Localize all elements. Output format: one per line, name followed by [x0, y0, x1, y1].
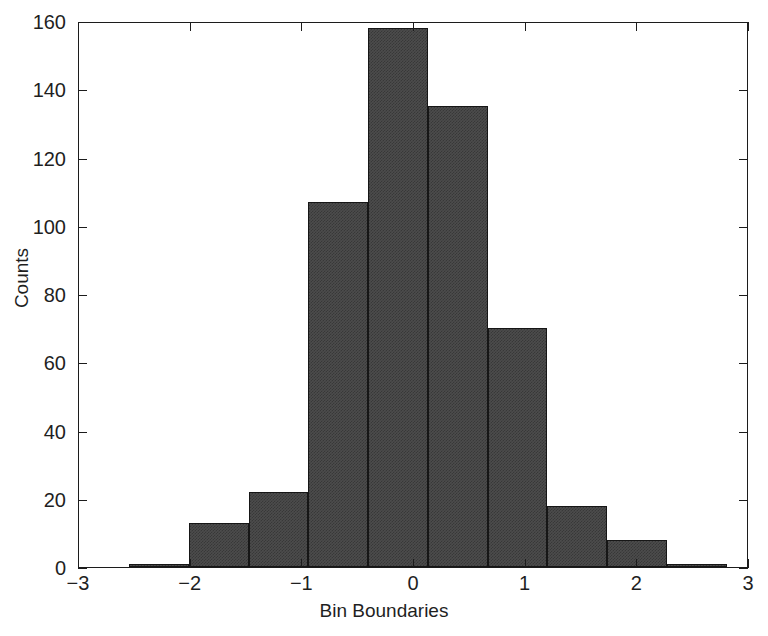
x-tick-label: 2	[606, 572, 666, 594]
histogram-bar	[547, 506, 607, 567]
y-tick-mark	[78, 363, 87, 364]
x-tick-label: 3	[718, 572, 768, 594]
x-tick-mark-top	[636, 22, 637, 31]
y-tick-mark-right	[739, 432, 748, 433]
x-tick-label: −1	[271, 572, 331, 594]
histogram-bar	[129, 564, 189, 567]
y-tick-label: 140	[33, 80, 66, 100]
x-tick-mark	[78, 559, 79, 568]
x-tick-mark-top	[525, 22, 526, 31]
y-tick-mark-right	[739, 159, 748, 160]
x-tick-mark	[190, 559, 191, 568]
histogram-bar	[488, 328, 548, 567]
x-axis-title: Bin Boundaries	[0, 600, 768, 622]
x-tick-mark	[636, 559, 637, 568]
x-tick-mark	[525, 559, 526, 568]
x-tick-label: −2	[160, 572, 220, 594]
x-tick-mark	[413, 559, 414, 568]
y-tick-mark-right	[739, 500, 748, 501]
histogram-figure: 020406080100120140160 −3−2−10123 Bin Bou…	[0, 0, 768, 636]
y-tick-mark	[78, 500, 87, 501]
y-tick-label: 100	[33, 217, 66, 237]
y-tick-mark-right	[739, 363, 748, 364]
x-tick-mark-top	[190, 22, 191, 31]
histogram-bar	[368, 28, 428, 567]
histogram-bar	[428, 106, 488, 567]
y-axis-title: Counts	[11, 218, 33, 338]
x-tick-mark	[301, 559, 302, 568]
x-tick-label: 0	[383, 572, 443, 594]
y-tick-mark-right	[739, 227, 748, 228]
histogram-bar	[189, 523, 249, 567]
y-tick-label: 40	[44, 422, 66, 442]
histogram-bar	[667, 564, 727, 567]
x-tick-mark-top	[78, 22, 79, 31]
y-tick-mark-right	[739, 295, 748, 296]
y-tick-label: 20	[44, 490, 66, 510]
x-tick-mark-top	[413, 22, 414, 31]
x-tick-mark-top	[748, 22, 749, 31]
plot-area	[78, 22, 748, 568]
y-tick-label: 120	[33, 149, 66, 169]
bars-layer	[79, 23, 747, 567]
y-tick-mark	[78, 568, 87, 569]
x-tick-mark	[748, 559, 749, 568]
x-tick-label: 1	[495, 572, 555, 594]
y-tick-mark-right	[739, 22, 748, 23]
y-tick-mark	[78, 159, 87, 160]
y-tick-mark	[78, 90, 87, 91]
y-tick-mark	[78, 432, 87, 433]
y-tick-mark-right	[739, 90, 748, 91]
y-tick-mark	[78, 295, 87, 296]
x-tick-label: −3	[48, 572, 108, 594]
x-tick-mark-top	[301, 22, 302, 31]
histogram-bar	[308, 202, 368, 567]
y-tick-label: 60	[44, 353, 66, 373]
y-tick-mark	[78, 227, 87, 228]
y-tick-label: 80	[44, 285, 66, 305]
y-tick-mark-right	[739, 568, 748, 569]
histogram-bar	[249, 492, 309, 567]
y-tick-mark	[78, 22, 87, 23]
y-tick-label: 160	[33, 12, 66, 32]
